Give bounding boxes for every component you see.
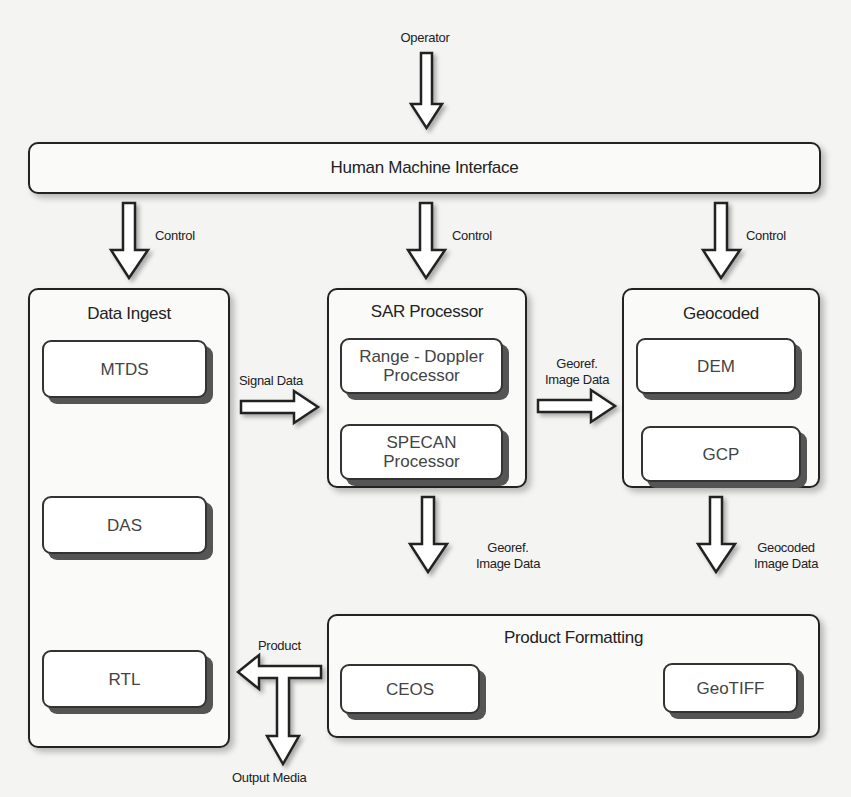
down-arrow-icon [110, 202, 150, 280]
geotiff-box: GeoTIFF [663, 663, 798, 713]
product-label: Product [258, 638, 301, 654]
data-ingest-title: Data Ingest [30, 304, 228, 324]
control-label: Control [155, 228, 195, 244]
product-formatting-title: Product Formatting [329, 628, 818, 648]
ceos-box: CEOS [340, 664, 480, 714]
mtds-box: MTDS [42, 340, 207, 398]
gcp-box: GCP [641, 426, 801, 482]
range-doppler-box: Range - Doppler Processor [340, 338, 503, 394]
down-arrow-icon [697, 496, 737, 574]
georef-vertical-label: Georef. Image Data [452, 540, 564, 572]
georef-image-data-label: Georef. Image Data [533, 356, 621, 388]
range-doppler-line1: Range - Doppler [359, 347, 484, 366]
down-arrow-icon [407, 202, 447, 280]
specan-line1: SPECAN [387, 433, 457, 452]
right-arrow-icon [240, 390, 320, 424]
hmi-title: Human Machine Interface [30, 158, 819, 178]
control-label: Control [452, 228, 492, 244]
product-output-arrow-icon [237, 656, 323, 768]
control-label: Control [746, 228, 786, 244]
hmi-box: Human Machine Interface [28, 142, 821, 194]
dem-box: DEM [636, 338, 796, 394]
operator-label: Operator [390, 30, 460, 46]
down-arrow-icon [409, 496, 449, 574]
specan-line2: Processor [383, 452, 460, 471]
down-arrow-icon [410, 52, 444, 130]
das-box: DAS [42, 496, 207, 554]
signal-data-label: Signal Data [239, 373, 303, 389]
sar-processor-title: SAR Processor [329, 302, 525, 322]
output-media-label: Output Media [232, 770, 306, 786]
rtl-box: RTL [42, 650, 207, 708]
geocoded-title: Geocoded [624, 304, 818, 324]
right-arrow-icon [537, 389, 617, 423]
specan-box: SPECAN Processor [340, 424, 503, 480]
range-doppler-line2: Processor [383, 366, 460, 385]
geocoded-image-data-label: Geocoded Image Data [740, 540, 832, 572]
down-arrow-icon [702, 202, 742, 280]
